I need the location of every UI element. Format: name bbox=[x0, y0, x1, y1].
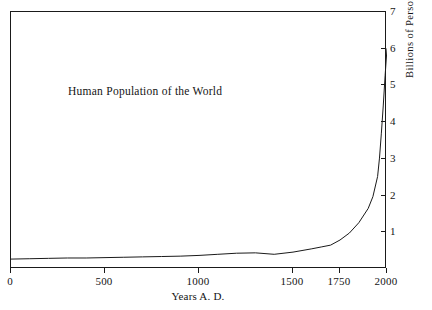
x-tick-500 bbox=[104, 268, 105, 273]
y-tick-5 bbox=[381, 84, 386, 85]
x-tick-1750 bbox=[339, 268, 340, 273]
y-tick-label-6: 6 bbox=[390, 42, 396, 54]
plot-area: Human Population of the World bbox=[10, 11, 386, 268]
y-tick-7 bbox=[381, 11, 386, 12]
population-curve bbox=[11, 12, 387, 269]
y-tick-4 bbox=[381, 121, 386, 122]
y-tick-label-7: 7 bbox=[390, 5, 396, 17]
y-axis-title: Billions of Persons bbox=[404, 0, 415, 78]
chart-figure: Human Population of the World 0500100015… bbox=[0, 0, 432, 310]
x-tick-label-0: 0 bbox=[7, 275, 13, 287]
x-axis-title: Years A. D. bbox=[0, 290, 396, 302]
x-tick-label-2000: 2000 bbox=[375, 275, 398, 287]
chart-title: Human Population of the World bbox=[68, 85, 222, 97]
population-curve-path bbox=[11, 49, 387, 259]
y-tick-label-5: 5 bbox=[390, 78, 396, 90]
x-tick-1000 bbox=[198, 268, 199, 273]
x-tick-label-1500: 1500 bbox=[281, 275, 304, 287]
y-tick-6 bbox=[381, 48, 386, 49]
y-tick-label-1: 1 bbox=[390, 225, 396, 237]
y-tick-2 bbox=[381, 195, 386, 196]
x-tick-1500 bbox=[292, 268, 293, 273]
x-tick-label-500: 500 bbox=[95, 275, 112, 287]
x-tick-label-1000: 1000 bbox=[187, 275, 210, 287]
y-tick-3 bbox=[381, 158, 386, 159]
y-tick-1 bbox=[381, 231, 386, 232]
x-tick-2000 bbox=[386, 268, 387, 273]
y-tick-label-2: 2 bbox=[390, 189, 396, 201]
y-tick-label-4: 4 bbox=[390, 115, 396, 127]
x-tick-label-1750: 1750 bbox=[328, 275, 351, 287]
x-tick-0 bbox=[10, 268, 11, 273]
y-tick-label-3: 3 bbox=[390, 152, 396, 164]
